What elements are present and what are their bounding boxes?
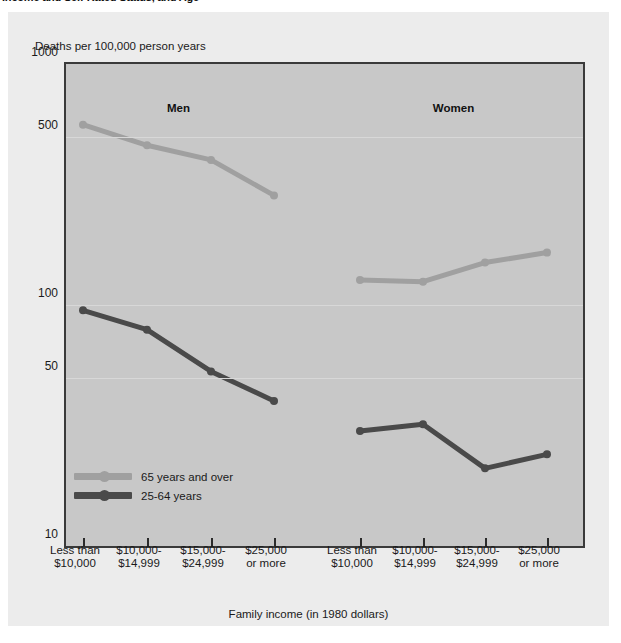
- legend-swatch-icon: [74, 473, 132, 480]
- data-point: [419, 420, 427, 428]
- data-point: [143, 326, 151, 334]
- data-point: [207, 367, 215, 375]
- legend-item: 65 years and over: [74, 467, 233, 486]
- legend-label: 65 years and over: [141, 471, 233, 483]
- y-tick-label: 100: [12, 286, 58, 300]
- data-point: [356, 427, 364, 435]
- data-point: [419, 278, 427, 286]
- group-label-women: Women: [433, 102, 474, 114]
- y-axis-ticks: 10005001005010: [8, 12, 58, 626]
- legend-label: 25-64 years: [141, 490, 202, 502]
- data-point: [270, 191, 278, 199]
- figure-caption: Income and Self-Rated Status, and Age: [2, 0, 199, 3]
- gridline: [66, 378, 583, 379]
- series-line: [360, 253, 547, 282]
- legend: 65 years and over25-64 years: [74, 467, 233, 505]
- data-point: [543, 249, 551, 257]
- data-point: [270, 397, 278, 405]
- figure-caption-strip: Income and Self-Rated Status, and Age: [0, 0, 621, 9]
- gridline: [66, 305, 583, 306]
- group-label-men: Men: [167, 102, 190, 114]
- x-axis-title: Family income (in 1980 dollars): [229, 608, 389, 620]
- data-point: [79, 306, 87, 314]
- chart-page: Income and Self-Rated Status, and Age De…: [0, 0, 621, 643]
- y-tick-label: 50: [12, 359, 58, 373]
- x-tick-label: $25,000 or more: [218, 544, 314, 570]
- y-tick-label: 1000: [12, 45, 58, 59]
- y-tick-label: 500: [12, 118, 58, 132]
- data-point: [207, 156, 215, 164]
- data-point: [481, 259, 489, 267]
- legend-swatch-icon: [74, 492, 132, 499]
- data-point: [543, 450, 551, 458]
- series-line: [83, 310, 274, 401]
- y-tick-label: 10: [12, 527, 58, 541]
- series-line: [83, 125, 274, 196]
- y-axis-title: Deaths per 100,000 person years: [35, 40, 206, 52]
- data-point: [356, 276, 364, 284]
- legend-item: 25-64 years: [74, 486, 233, 505]
- data-point: [481, 464, 489, 472]
- x-tick-label: $25,000 or more: [491, 544, 587, 570]
- series-line: [360, 424, 547, 468]
- data-point: [143, 141, 151, 149]
- gridline: [66, 137, 583, 138]
- figure-panel: Deaths per 100,000 person years 10005001…: [8, 12, 609, 626]
- data-point: [79, 121, 87, 129]
